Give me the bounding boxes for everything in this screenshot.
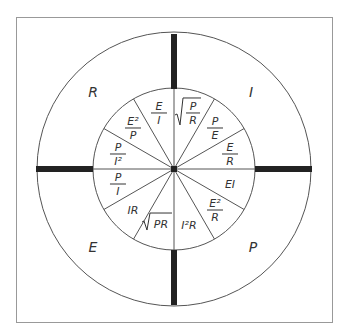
formula-i-1: PE <box>207 115 223 142</box>
svg-text:I: I <box>157 114 160 127</box>
formula-e-1: IR <box>128 204 139 217</box>
svg-text:P: P <box>130 129 137 142</box>
formula-p-1: E²R <box>207 197 223 224</box>
svg-text:P: P <box>212 115 219 128</box>
formula-r-1: E²P <box>125 115 141 142</box>
quadrant-label-e: E <box>89 239 98 255</box>
svg-text:E: E <box>227 141 234 154</box>
ohms-law-wheel: R I P E PI²E²PEIPRPEEREIE²RI²RPRIRPI <box>0 0 344 333</box>
svg-text:E²: E² <box>127 115 139 128</box>
formula-p-0: EI <box>225 178 235 191</box>
svg-text:I: I <box>116 185 119 198</box>
bar-top <box>171 34 177 89</box>
svg-text:E: E <box>156 100 163 113</box>
svg-text:I²: I² <box>114 155 122 168</box>
quadrant-label-r: R <box>88 84 98 100</box>
svg-text:R: R <box>211 211 219 224</box>
svg-text:P: P <box>115 171 122 184</box>
formula-p-2: I²R <box>181 219 196 232</box>
svg-text:I²R: I²R <box>181 219 196 232</box>
svg-text:P: P <box>115 141 122 154</box>
quadrant-label-i: I <box>249 84 253 100</box>
svg-text:IR: IR <box>128 204 139 217</box>
wedge-divider <box>134 99 175 169</box>
svg-text:EI: EI <box>225 178 235 191</box>
formula-e-2: PI <box>110 171 126 198</box>
formula-r-2: EI <box>151 100 167 127</box>
bar-left <box>36 166 93 172</box>
sqrt-sign <box>175 98 201 125</box>
bar-bottom <box>171 250 177 305</box>
formula-r-0: PI² <box>110 141 126 168</box>
svg-text:P: P <box>190 100 197 113</box>
svg-text:PR: PR <box>154 218 168 231</box>
svg-text:E²: E² <box>209 197 221 210</box>
formula-i-0: PR <box>175 98 201 127</box>
svg-text:R: R <box>189 114 197 127</box>
quadrant-label-p: P <box>249 239 258 255</box>
svg-text:E: E <box>212 129 219 142</box>
formula-i-2: ER <box>222 141 238 168</box>
svg-text:R: R <box>226 155 234 168</box>
bar-right <box>255 166 312 172</box>
center-dot <box>171 166 177 172</box>
